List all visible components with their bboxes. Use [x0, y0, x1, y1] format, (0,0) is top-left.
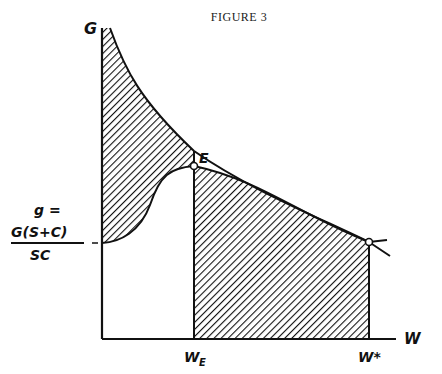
intercept-label-g: g = — [34, 202, 61, 218]
intercept-label-denominator: SC — [30, 247, 51, 263]
w-star-label: W* — [358, 349, 381, 365]
w-e-subscript: E — [199, 357, 206, 368]
intercept-label-numerator: G(S+C) — [11, 224, 67, 240]
hatched-region-right — [194, 166, 369, 339]
x-axis-label: W — [404, 330, 422, 348]
point-w-star-marker — [366, 239, 373, 246]
y-axis-label: G — [84, 19, 97, 38]
figure-diagram: G W E W E W* g = G(S+C) SC — [0, 0, 442, 374]
w-e-label: W — [184, 349, 200, 365]
point-e-label: E — [199, 150, 209, 166]
point-e-marker — [191, 163, 198, 170]
